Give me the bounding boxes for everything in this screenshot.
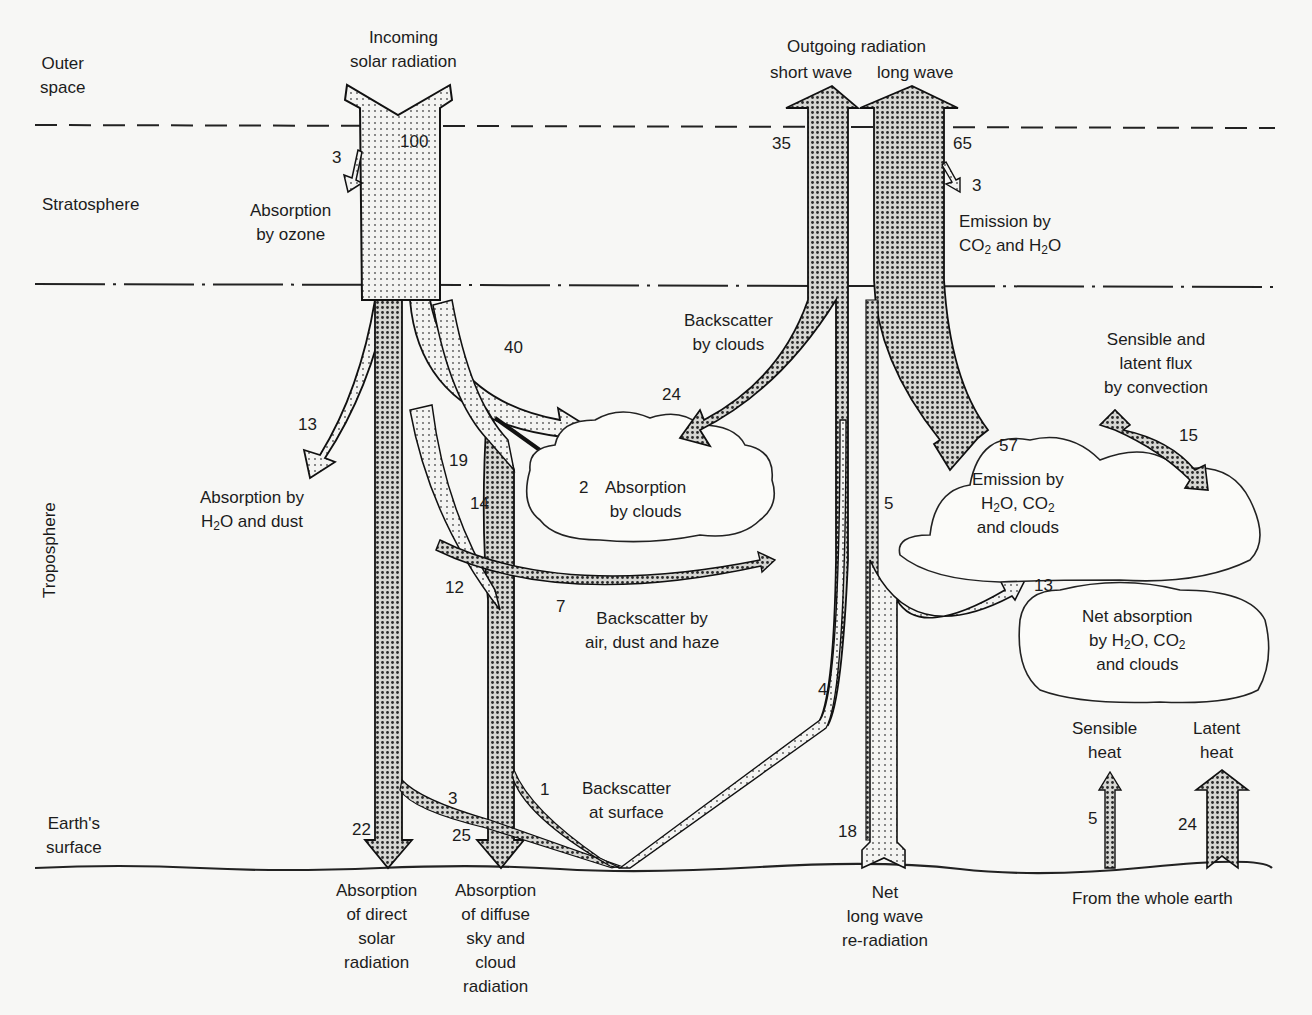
ozone-absorption-label: Absorption by ozone (250, 199, 331, 247)
cloud-absorb-label: Absorption by clouds (605, 476, 686, 524)
backscatter-clouds-value: 24 (662, 385, 681, 405)
h2o-dust-line1: Absorption by (200, 486, 304, 510)
air-backscatter-line2: air, dust and haze (585, 631, 719, 655)
net-absorption-line2: by H2O, CO2 (1082, 629, 1193, 653)
co2-h2o-line1: Emission by (959, 210, 1061, 234)
h2o-dust-label: Absorption by H2O and dust (200, 486, 304, 534)
diffuse-absorption-label: Absorption of diffuse sky and cloud radi… (455, 879, 536, 999)
latent-line2: heat (1193, 741, 1240, 765)
outer-space-line2: space (40, 76, 85, 100)
earth-surface-label: Earth's surface (46, 812, 102, 860)
earth-surface-line1: Earth's (46, 812, 102, 836)
earth-surface-line2: surface (46, 836, 102, 860)
diffuse-19-value: 19 (449, 451, 468, 471)
outer-space-label: Outer space (40, 52, 85, 100)
ozone-line1: Absorption (250, 199, 331, 223)
diffuse-line3: sky and (455, 927, 536, 951)
backscatter-clouds-label: Backscatter by clouds (684, 309, 773, 357)
incoming-line1: Incoming (350, 26, 457, 50)
net-absorption-label: Net absorption by H2O, CO2 and clouds (1082, 605, 1193, 677)
latent-heat-arrow (1196, 770, 1248, 868)
latent-heat-value: 24 (1178, 815, 1197, 835)
incoming-value: 100 (400, 132, 428, 152)
co2-h2o-value: 3 (972, 176, 981, 196)
troposphere-label: Troposphere (40, 502, 60, 598)
h2o-dust-value: 13 (298, 415, 317, 435)
direct-line2: of direct (336, 903, 417, 927)
surface-backscatter-line2: at surface (582, 801, 671, 825)
net-reradiation-line2: long wave (842, 905, 928, 929)
outer-space-line1: Outer (40, 52, 85, 76)
diffuse-14-value: 14 (470, 494, 489, 514)
long-wave-label: long wave (877, 61, 954, 85)
latent-heat-label: Latent heat (1193, 717, 1240, 765)
short-wave-label: short wave (770, 61, 852, 85)
emission-value: 57 (999, 436, 1018, 456)
cloud-absorb-value: 2 (579, 478, 588, 498)
air-backscatter-label: Backscatter by air, dust and haze (585, 607, 719, 655)
surface-backscatter-line1: Backscatter (582, 777, 671, 801)
diffuse-line1: Absorption (455, 879, 536, 903)
co2-h2o-line2: CO2 and H2O (959, 234, 1061, 258)
short-wave-value: 35 (772, 134, 791, 154)
sensible-heat-value: 5 (1088, 809, 1097, 829)
direct-value: 22 (352, 820, 371, 840)
direct-line3: solar (336, 927, 417, 951)
direct-line1: Absorption (336, 879, 417, 903)
radiation-balance-diagram: Outer space Stratosphere Troposphere Ear… (0, 0, 1312, 1015)
diffuse-line5: radiation (455, 975, 536, 999)
net-absorption-line1: Net absorption (1082, 605, 1193, 629)
emission-line3: and clouds (972, 516, 1064, 540)
convection-line3: by convection (1104, 376, 1208, 400)
sensible-heat-label: Sensible heat (1072, 717, 1137, 765)
net-longwave-column (862, 560, 1025, 868)
diffuse-sky-column (477, 410, 524, 868)
convection-value: 15 (1179, 426, 1198, 446)
tropopause-space-boundary (35, 125, 1275, 128)
convection-label: Sensible and latent flux by convection (1104, 328, 1208, 400)
diffuse-12-value: 12 (445, 578, 464, 598)
h2o-dust-line2: H2O and dust (200, 510, 304, 534)
latent-line1: Latent (1193, 717, 1240, 741)
emission-line2: H2O, CO2 (972, 492, 1064, 516)
sensible-line1: Sensible (1072, 717, 1137, 741)
clouds-incident-value: 40 (504, 338, 523, 358)
backscatter-clouds-line1: Backscatter (684, 309, 773, 333)
sensible-heat-arrow (1099, 772, 1121, 868)
ozone-value: 3 (332, 148, 341, 168)
net-reradiation-value: 18 (838, 822, 857, 842)
ozone-absorption-arrow (344, 150, 362, 192)
diffuse-line4: cloud (455, 951, 536, 975)
to-space-value: 5 (884, 494, 893, 514)
air-backscatter-line1: Backscatter by (585, 607, 719, 631)
incoming-solar-label: Incoming solar radiation (350, 26, 457, 74)
direct-line4: radiation (336, 951, 417, 975)
emission-line1: Emission by (972, 468, 1064, 492)
net-reradiation-label: Net long wave re-radiation (842, 881, 928, 953)
reflected-up-value: 4 (818, 680, 827, 700)
direct-absorption-label: Absorption of direct solar radiation (336, 879, 417, 975)
emission-label: Emission by H2O, CO2 and clouds (972, 468, 1064, 540)
whole-earth-label: From the whole earth (1072, 887, 1233, 911)
backscatter-clouds-line2: by clouds (684, 333, 773, 357)
stratopause-boundary (35, 284, 1275, 287)
net-reradiation-line1: Net (842, 881, 928, 905)
incoming-solar-arrow (345, 85, 452, 300)
net-absorption-value: 13 (1034, 576, 1053, 596)
air-backscatter-value: 7 (556, 597, 565, 617)
sensible-line2: heat (1072, 741, 1137, 765)
stratosphere-label: Stratosphere (42, 193, 139, 217)
surface-backscatter-label: Backscatter at surface (582, 777, 671, 825)
cloud-absorb-line2: by clouds (605, 500, 686, 524)
surface-backscatter-1-value: 1 (540, 780, 549, 800)
convection-line2: latent flux (1104, 352, 1208, 376)
cloud-absorb-line1: Absorption (605, 476, 686, 500)
earth-surface-line (35, 862, 1272, 873)
ozone-line2: by ozone (250, 223, 331, 247)
outgoing-label: Outgoing radiation (787, 35, 926, 59)
incoming-line2: solar radiation (350, 50, 457, 74)
convection-line1: Sensible and (1104, 328, 1208, 352)
net-reradiation-line3: re-radiation (842, 929, 928, 953)
co2-h2o-label: Emission by CO2 and H2O (959, 210, 1061, 258)
surface-backscatter-3-value: 3 (448, 789, 457, 809)
